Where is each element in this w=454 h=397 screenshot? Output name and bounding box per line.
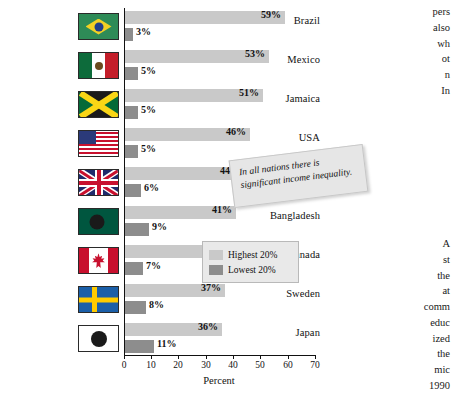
- flag-mexico-icon: [78, 52, 119, 79]
- bar-value: 37%: [201, 282, 221, 293]
- bar-lowest-20: 3%: [124, 28, 133, 41]
- legend-swatch-lowest-icon: [209, 265, 223, 275]
- bar-value: 5%: [141, 104, 156, 115]
- body-text-bottom: A st the at comm educ ized the mic 1990: [330, 236, 452, 394]
- bar-value: 3%: [136, 26, 151, 37]
- bar-value: 36%: [198, 321, 218, 332]
- bar-highest-20: 36%: [124, 323, 222, 336]
- body-text-top: pers also wh ot n In: [330, 4, 452, 99]
- bar-highest-20: 51%: [124, 89, 263, 102]
- x-axis: 0 10 20 30 40 50 60 70 Percent: [124, 355, 315, 395]
- chart-row: Mexico 53% 5%: [0, 47, 320, 87]
- bar-lowest-20: 6%: [124, 184, 141, 197]
- flag-brazil-icon: [78, 13, 119, 40]
- x-tick-label: 40: [228, 360, 238, 370]
- bar-highest-20: 44%: [124, 167, 244, 180]
- bar-value: 9%: [152, 221, 167, 232]
- legend-item-highest: Highest 20%: [209, 247, 292, 262]
- category-label: Japan: [246, 327, 320, 338]
- flag-bangladesh-icon: [78, 208, 119, 235]
- category-label: USA: [246, 132, 320, 143]
- bar-value: 5%: [141, 143, 156, 154]
- bar-lowest-20: 5%: [124, 145, 138, 158]
- bar-value: 11%: [157, 338, 176, 349]
- page-body-text: pers also wh ot n In A st the at comm ed…: [328, 0, 454, 397]
- legend-swatch-highest-icon: [209, 250, 223, 260]
- bar-highest-20: 41%: [124, 206, 236, 219]
- chart-row: Japan 36% 11%: [0, 320, 320, 360]
- legend-label: Lowest 20%: [228, 265, 276, 275]
- x-tick-label: 10: [146, 360, 156, 370]
- x-tick-label: 0: [122, 360, 127, 370]
- bar-value: 46%: [226, 126, 246, 137]
- chart-row: Bangladesh 41% 9%: [0, 203, 320, 243]
- chart-legend: Highest 20% Lowest 20%: [202, 241, 299, 283]
- chart-row: Jamaica 51% 5%: [0, 86, 320, 126]
- flag-usa-icon: [78, 130, 119, 157]
- flag-japan-icon: [78, 325, 119, 352]
- legend-label: Highest 20%: [228, 250, 277, 260]
- x-axis-title: Percent: [203, 375, 235, 386]
- flag-sweden-icon: [78, 286, 119, 313]
- chart-page: Brazil 59% 3% Mexico 53% 5%: [0, 0, 454, 397]
- bar-value: 8%: [149, 299, 164, 310]
- legend-item-lowest: Lowest 20%: [209, 262, 292, 277]
- flag-canada-icon: [78, 247, 119, 274]
- bar-lowest-20: 7%: [124, 262, 143, 275]
- bar-lowest-20: 9%: [124, 223, 149, 236]
- bar-value: 51%: [239, 87, 259, 98]
- category-label: Sweden: [246, 288, 320, 299]
- bar-value: 59%: [261, 9, 281, 20]
- x-tick-label: 20: [173, 360, 183, 370]
- x-tick-label: 60: [283, 360, 293, 370]
- x-tick-label: 30: [201, 360, 211, 370]
- flag-great-britain-icon: [78, 169, 119, 196]
- bar-highest-20: 37%: [124, 284, 225, 297]
- x-axis-line: [124, 355, 315, 356]
- axis-baseline: [124, 8, 125, 356]
- bar-highest-20: 46%: [124, 128, 250, 141]
- bar-lowest-20: 8%: [124, 301, 146, 314]
- bar-value: 6%: [144, 182, 159, 193]
- income-inequality-chart: Brazil 59% 3% Mexico 53% 5%: [0, 0, 320, 397]
- bar-highest-20: 53%: [124, 50, 269, 63]
- category-label: Bangladesh: [246, 210, 320, 221]
- bar-value: 7%: [146, 260, 161, 271]
- chart-row: Brazil 59% 3%: [0, 8, 320, 48]
- bar-value: 53%: [245, 48, 265, 59]
- bar-value: 41%: [212, 204, 232, 215]
- bar-lowest-20: 11%: [124, 340, 154, 353]
- flag-jamaica-icon: [78, 91, 119, 118]
- x-tick-label: 70: [310, 360, 320, 370]
- chart-row: Sweden 37% 8%: [0, 281, 320, 321]
- bar-lowest-20: 5%: [124, 106, 138, 119]
- bar-highest-20: 59%: [124, 11, 285, 24]
- x-tick-label: 50: [255, 360, 265, 370]
- bar-lowest-20: 5%: [124, 67, 138, 80]
- bar-value: 5%: [141, 65, 156, 76]
